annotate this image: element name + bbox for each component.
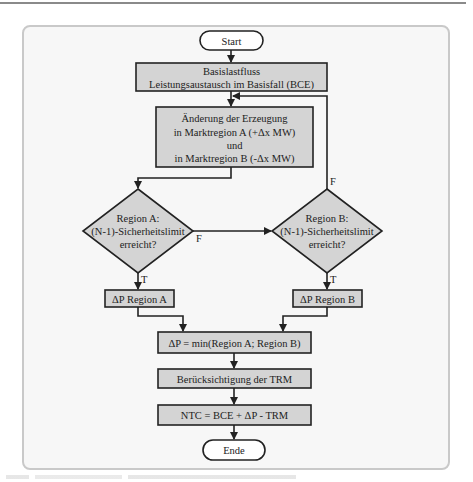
- change-line2: in Marktregion A (+Δx MW): [174, 127, 296, 139]
- node-dp-min: ΔP = min(Region A; Region B): [158, 332, 311, 353]
- decision-a-false-label: F: [196, 233, 202, 244]
- change-line4: in Marktregion B (-Δx MW): [175, 153, 295, 165]
- decision-a-line3: erreicht?: [120, 239, 157, 250]
- decision-a-line2: (N-1)-Sicherheitslimit: [91, 226, 184, 238]
- node-dp-region-a: ΔP Region A: [105, 290, 174, 307]
- node-decision-b: Region B: (N-1)-Sicherheitslimit erreich…: [272, 189, 382, 273]
- ntc-label: NTC = BCE + ΔP - TRM: [181, 410, 289, 421]
- faded-caption: [6, 475, 296, 479]
- node-change-generation: Änderung der Erzeugung in Marktregion A …: [156, 107, 313, 167]
- end-label: Ende: [223, 445, 245, 456]
- node-end: Ende: [203, 440, 265, 460]
- edge-change-to-decision-a: [138, 167, 231, 188]
- change-line1: Änderung der Erzeugung: [181, 113, 288, 124]
- decision-a-true-label: T: [141, 274, 148, 285]
- node-base-flow: Basislastfluss Leistungsaustausch im Bas…: [136, 63, 327, 91]
- decision-b-true-label: T: [330, 274, 337, 285]
- node-decision-a: Region A: (N-1)-Sicherheitslimit erreich…: [83, 189, 193, 273]
- start-label: Start: [222, 36, 242, 47]
- change-line3: und: [227, 140, 244, 151]
- base-flow-line1: Basislastfluss: [203, 66, 260, 77]
- decision-b-line3: erreicht?: [309, 239, 346, 250]
- node-ntc: NTC = BCE + ΔP - TRM: [158, 405, 311, 425]
- node-start: Start: [200, 31, 263, 50]
- node-dp-region-b: ΔP Region B: [293, 290, 362, 307]
- base-flow-line2: Leistungsaustausch im Basisfall (BCE): [149, 79, 314, 91]
- node-trm: Berücksichtigung der TRM: [158, 369, 311, 388]
- edge-dpb-to-min: [283, 307, 327, 331]
- decision-b-false-label: F: [330, 176, 336, 187]
- dp-b-label: ΔP Region B: [300, 294, 355, 305]
- flowchart: Start Basislastfluss Leistungsaustausch …: [0, 0, 473, 482]
- decision-b-line1: Region B:: [306, 213, 349, 224]
- decision-b-line2: (N-1)-Sicherheitslimit: [280, 226, 373, 238]
- trm-label: Berücksichtigung der TRM: [177, 374, 293, 385]
- edge-dpa-to-min: [138, 307, 183, 331]
- dp-min-label: ΔP = min(Region A; Region B): [168, 338, 301, 350]
- dp-a-label: ΔP Region A: [112, 294, 167, 305]
- decision-a-line1: Region A:: [117, 213, 160, 224]
